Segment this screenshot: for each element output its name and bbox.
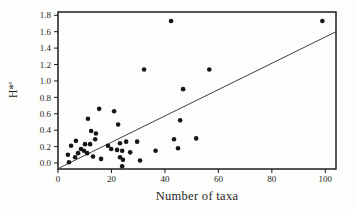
data-point — [74, 139, 79, 144]
data-point — [169, 19, 174, 24]
data-point — [83, 142, 88, 147]
y-tick-label: 1.6 — [40, 27, 52, 37]
x-tick-label: 80 — [267, 174, 277, 184]
data-point — [99, 157, 104, 162]
y-tick-label: 0.2 — [40, 142, 51, 152]
data-point — [124, 139, 129, 144]
y-tick-label: 1.8 — [40, 10, 52, 20]
data-point — [94, 131, 99, 136]
data-point — [88, 142, 93, 147]
data-point — [207, 67, 212, 72]
data-point — [93, 137, 98, 142]
data-point — [89, 129, 94, 134]
data-point — [97, 107, 102, 112]
data-point — [153, 148, 158, 153]
x-tick-label: 0 — [56, 174, 61, 184]
data-point — [109, 147, 114, 152]
scatter-plot: 0204060801000.00.20.40.60.81.01.21.41.61… — [0, 0, 355, 210]
data-point — [142, 67, 147, 72]
scatter-figure: 0204060801000.00.20.40.60.81.01.21.41.61… — [0, 0, 355, 210]
data-point — [138, 158, 143, 163]
trend-line — [59, 32, 336, 168]
data-point — [320, 19, 325, 24]
x-tick-label: 40 — [160, 174, 170, 184]
data-point — [128, 150, 133, 155]
data-point — [178, 118, 183, 123]
y-tick-label: 1.2 — [40, 60, 51, 70]
data-point — [172, 137, 177, 142]
data-point — [135, 139, 140, 144]
data-point — [116, 122, 121, 127]
data-point — [86, 116, 91, 121]
data-point — [91, 154, 96, 159]
data-point — [120, 148, 125, 153]
y-tick-label: 0.8 — [40, 93, 52, 103]
y-tick-label: 0.6 — [40, 109, 52, 119]
y-axis-label: H*' — [7, 82, 19, 98]
x-tick-label: 20 — [107, 174, 117, 184]
x-axis-label: Number of taxa — [156, 189, 239, 204]
y-tick-label: 0.0 — [40, 158, 52, 168]
data-point — [112, 109, 117, 114]
plot-frame — [58, 12, 336, 169]
data-point — [118, 141, 123, 146]
data-point — [67, 160, 72, 165]
data-point — [121, 157, 126, 162]
data-point — [120, 164, 125, 169]
x-tick-label: 100 — [319, 174, 333, 184]
y-tick-label: 1.4 — [40, 43, 52, 53]
data-point — [176, 146, 181, 151]
data-point — [85, 151, 90, 156]
data-point — [66, 153, 71, 158]
data-point — [115, 148, 120, 153]
data-point — [73, 155, 78, 160]
data-point — [76, 151, 81, 156]
data-point — [194, 136, 199, 141]
data-point — [69, 143, 74, 148]
y-tick-label: 1.0 — [40, 76, 52, 86]
y-tick-label: 0.4 — [40, 125, 52, 135]
data-point — [106, 143, 111, 148]
x-tick-label: 60 — [214, 174, 224, 184]
data-point — [181, 87, 186, 92]
